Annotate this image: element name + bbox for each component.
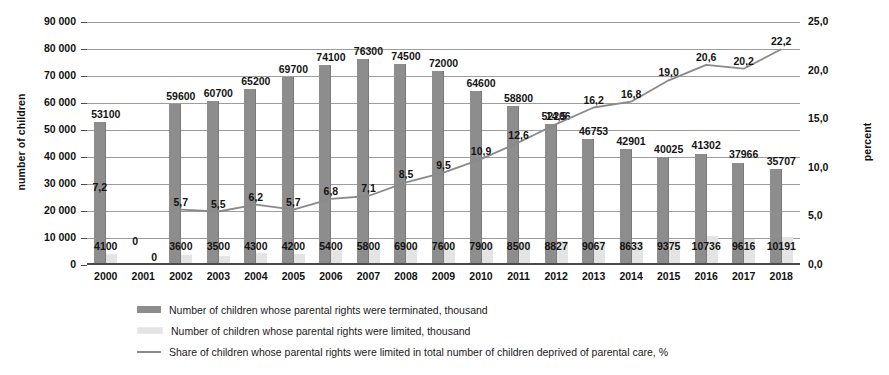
legend-label: Number of children whose parental rights… xyxy=(169,304,488,316)
x-axis-label: 2009 xyxy=(424,270,464,282)
y-axis-left-tick-label: 90 000 xyxy=(14,15,76,27)
bar-value-label-limited: 3500 xyxy=(198,240,238,252)
y-axis-tick xyxy=(81,22,87,23)
line-point-label[interactable]: 8,5 xyxy=(391,168,421,180)
line-point-label[interactable]: 7,1 xyxy=(353,182,383,194)
legend-label: Number of children whose parental rights… xyxy=(171,325,470,337)
bar-value-label-limited: 4300 xyxy=(236,240,276,252)
line-point-label[interactable]: 5,7 xyxy=(166,196,196,208)
line-point-label[interactable]: 12,6 xyxy=(504,129,534,141)
x-axis-label: 2000 xyxy=(86,270,126,282)
x-axis-label: 2012 xyxy=(536,270,576,282)
y-axis-right-tick-label: 20,0 xyxy=(808,64,854,76)
line-point-label[interactable]: 9,5 xyxy=(429,159,459,171)
y-axis-tick xyxy=(81,211,87,212)
bar-terminated[interactable] xyxy=(470,91,482,265)
x-axis-label: 2014 xyxy=(611,270,651,282)
bar-value-label-limited: 8827 xyxy=(536,240,576,252)
y-axis-left-tick-label: 30 000 xyxy=(14,177,76,189)
chart-legend: Number of children whose parental rights… xyxy=(137,299,837,362)
bar-value-label-terminated: 0 xyxy=(112,235,158,247)
legend-swatch-terminated xyxy=(137,306,161,313)
line-point-label[interactable]: 7,2 xyxy=(85,181,115,193)
x-axis-label: 2004 xyxy=(236,270,276,282)
y-axis-left-tick-label: 10 000 xyxy=(14,231,76,243)
bar-terminated[interactable] xyxy=(394,64,406,265)
x-axis-line xyxy=(87,263,800,265)
legend-swatch-limited xyxy=(137,327,163,334)
legend-item[interactable]: Share of children whose parental rights … xyxy=(137,341,837,362)
line-point-label[interactable]: 19,0 xyxy=(654,66,684,78)
chart-container: number of children percent 010 00020 000… xyxy=(0,0,889,375)
x-axis-label: 2018 xyxy=(761,270,801,282)
bar-terminated[interactable] xyxy=(357,59,369,265)
bar-value-label-limited: 8500 xyxy=(499,240,539,252)
line-point-label[interactable]: 16,2 xyxy=(579,94,609,106)
line-point-label[interactable]: 20,2 xyxy=(729,55,759,67)
y-axis-right-tick-label: 0,0 xyxy=(808,258,854,270)
x-axis-label: 2005 xyxy=(273,270,313,282)
bar-value-label-limited: 9067 xyxy=(574,240,614,252)
x-axis-label: 2011 xyxy=(499,270,539,282)
bar-value-label-limited: 7900 xyxy=(461,240,501,252)
line-point-label[interactable]: 10,9 xyxy=(466,145,496,157)
line-point-label[interactable]: 22,2 xyxy=(766,35,796,47)
bar-value-label-terminated: 60700 xyxy=(195,87,241,99)
bar-value-label-terminated: 72000 xyxy=(421,57,467,69)
y-axis-right-title: percent xyxy=(861,87,873,197)
x-axis-label: 2007 xyxy=(348,270,388,282)
bar-terminated[interactable] xyxy=(244,89,256,265)
y-axis-left-tick-label: 70 000 xyxy=(14,69,76,81)
line-point-label[interactable]: 5,7 xyxy=(278,196,308,208)
bar-value-label-limited: 3600 xyxy=(161,240,201,252)
x-axis-label: 2013 xyxy=(574,270,614,282)
y-axis-tick xyxy=(81,157,87,158)
x-axis-label: 2010 xyxy=(461,270,501,282)
legend-item[interactable]: Number of children whose parental rights… xyxy=(137,320,837,341)
bar-value-label-terminated: 69700 xyxy=(270,63,316,75)
line-point-label[interactable]: 20,6 xyxy=(691,51,721,63)
x-axis-label: 2006 xyxy=(311,270,351,282)
bar-value-label-limited: 5800 xyxy=(348,240,388,252)
x-axis-label: 2008 xyxy=(386,270,426,282)
y-axis-left-tick-label: 80 000 xyxy=(14,42,76,54)
y-axis-tick xyxy=(81,76,87,77)
bar-value-label-terminated: 65200 xyxy=(233,75,279,87)
y-axis-left-tick-label: 0 xyxy=(14,258,76,270)
bar-value-label-limited: 7600 xyxy=(424,240,464,252)
bar-terminated[interactable] xyxy=(282,77,294,265)
line-point-label[interactable]: 6,2 xyxy=(241,191,271,203)
bar-value-label-limited: 10191 xyxy=(761,240,801,252)
bar-value-label-terminated: 58800 xyxy=(496,92,542,104)
bar-value-label-limited: 9616 xyxy=(724,240,764,252)
bar-value-label-limited: 0 xyxy=(134,251,174,263)
bar-value-label-terminated: 35707 xyxy=(758,155,804,167)
x-axis-label: 2016 xyxy=(686,270,726,282)
gridline xyxy=(87,22,800,23)
gridline xyxy=(87,265,800,266)
bar-value-label-limited: 10736 xyxy=(686,240,726,252)
x-axis-label: 2015 xyxy=(649,270,689,282)
bar-value-label-terminated: 53100 xyxy=(83,108,129,120)
line-point-label[interactable]: 6,8 xyxy=(316,185,346,197)
x-axis-label: 2001 xyxy=(123,270,163,282)
y-axis-right-tick-label: 10,0 xyxy=(808,161,854,173)
line-point-label[interactable]: 16,8 xyxy=(616,88,646,100)
bar-value-label-limited: 4200 xyxy=(273,240,313,252)
y-axis-left-tick-label: 60 000 xyxy=(14,96,76,108)
y-axis-right-tick-label: 15,0 xyxy=(808,112,854,124)
x-axis-label: 2002 xyxy=(161,270,201,282)
bar-terminated[interactable] xyxy=(319,65,331,265)
bar-value-label-limited: 5400 xyxy=(311,240,351,252)
line-point-label[interactable]: 5,5 xyxy=(203,198,233,210)
y-axis-left-tick-label: 20 000 xyxy=(14,204,76,216)
plot-area: 5310041000059600360060700350065200430069… xyxy=(87,22,800,265)
legend-item[interactable]: Number of children whose parental rights… xyxy=(137,299,837,320)
y-axis-left-tick-label: 40 000 xyxy=(14,150,76,162)
y-axis-left-tick-label: 50 000 xyxy=(14,123,76,135)
line-point-label[interactable]: 14,5 xyxy=(541,110,571,122)
x-axis-label: 2003 xyxy=(198,270,238,282)
legend-swatch-share xyxy=(137,351,161,353)
bar-value-label-terminated: 64600 xyxy=(458,77,504,89)
y-axis-right-tick-label: 25,0 xyxy=(808,15,854,27)
